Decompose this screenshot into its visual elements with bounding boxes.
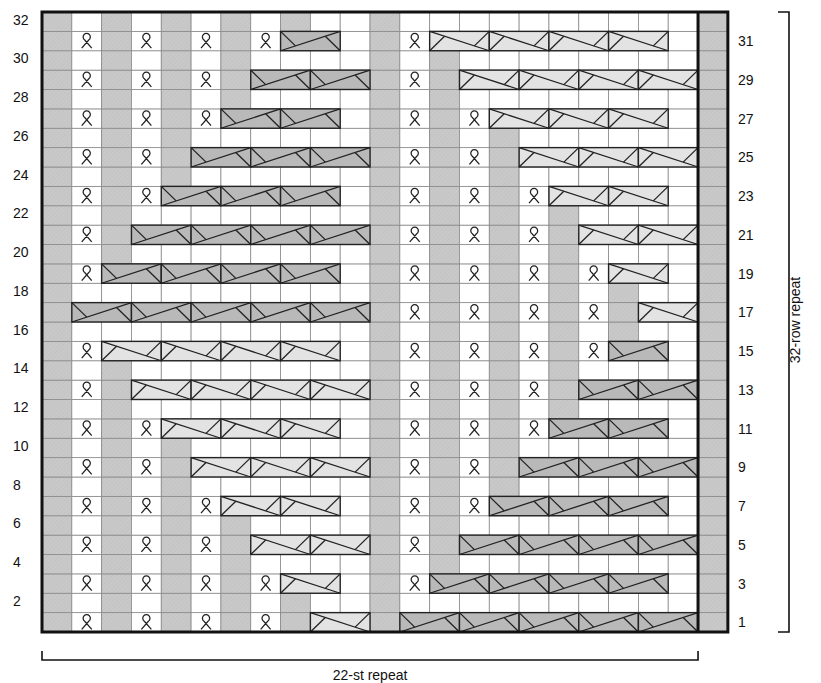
knit-cell bbox=[281, 516, 311, 535]
knit-cell bbox=[549, 438, 579, 457]
knit-cell bbox=[310, 167, 340, 186]
cable-left-cross bbox=[161, 341, 221, 360]
knit-cell bbox=[459, 361, 489, 380]
knit-cell bbox=[340, 245, 370, 264]
purl-cell bbox=[102, 51, 132, 70]
purl-cell bbox=[221, 593, 251, 612]
knit-cell bbox=[638, 438, 668, 457]
knit-cell bbox=[459, 283, 489, 302]
purl-cell bbox=[42, 167, 72, 186]
cable-left-cross bbox=[609, 109, 669, 128]
knit-cell bbox=[72, 128, 102, 147]
cable-right-cross bbox=[549, 496, 609, 515]
loop-stitch-cell bbox=[191, 496, 221, 515]
knit-cell bbox=[72, 12, 102, 31]
knit-cell bbox=[131, 245, 161, 264]
purl-cell bbox=[102, 574, 132, 593]
cable-left-cross bbox=[191, 458, 251, 477]
cable-right-cross bbox=[281, 109, 341, 128]
purl-cell bbox=[430, 245, 460, 264]
cable-right-cross bbox=[281, 186, 341, 205]
knit-cell bbox=[310, 438, 340, 457]
row-number-label: 13 bbox=[738, 383, 768, 397]
purl-cell bbox=[102, 477, 132, 496]
purl-cell bbox=[370, 31, 400, 50]
purl-cell bbox=[102, 419, 132, 438]
knit-cell bbox=[340, 400, 370, 419]
knit-cell bbox=[549, 593, 579, 612]
loop-stitch-cell bbox=[72, 380, 102, 399]
knit-cell bbox=[579, 283, 609, 302]
purl-cell bbox=[430, 322, 460, 341]
cable-right-cross bbox=[221, 264, 281, 283]
purl-cell bbox=[430, 555, 460, 574]
row-number-label: 15 bbox=[738, 344, 768, 358]
cable-left-cross bbox=[191, 380, 251, 399]
knit-cell bbox=[579, 400, 609, 419]
knit-cell bbox=[549, 516, 579, 535]
cable-right-cross bbox=[609, 341, 669, 360]
purl-cell bbox=[221, 12, 251, 31]
purl-cell bbox=[549, 380, 579, 399]
purl-cell bbox=[430, 70, 460, 89]
purl-cell bbox=[102, 516, 132, 535]
purl-cell bbox=[370, 400, 400, 419]
knit-cell bbox=[519, 555, 549, 574]
purl-cell bbox=[489, 361, 519, 380]
loop-stitch-cell bbox=[400, 574, 430, 593]
cable-right-cross bbox=[609, 419, 669, 438]
purl-cell bbox=[42, 458, 72, 477]
purl-cell bbox=[42, 90, 72, 109]
purl-cell bbox=[549, 264, 579, 283]
purl-cell bbox=[489, 438, 519, 457]
row-number-label: 21 bbox=[738, 228, 768, 242]
loop-stitch-cell bbox=[131, 419, 161, 438]
cable-left-cross bbox=[549, 109, 609, 128]
purl-cell bbox=[430, 51, 460, 70]
purl-cell bbox=[489, 477, 519, 496]
knit-cell bbox=[400, 555, 430, 574]
knit-cell bbox=[459, 438, 489, 457]
knit-cell bbox=[638, 477, 668, 496]
purl-cell bbox=[42, 31, 72, 50]
row-number-label: 12 bbox=[13, 400, 35, 414]
purl-cell bbox=[221, 574, 251, 593]
knit-cell bbox=[340, 167, 370, 186]
purl-cell bbox=[489, 303, 519, 322]
purl-cell bbox=[698, 438, 728, 457]
row-number-label: 3 bbox=[738, 577, 768, 591]
knit-cell bbox=[72, 593, 102, 612]
cable-left-cross bbox=[579, 70, 639, 89]
row-number-label: 19 bbox=[738, 267, 768, 281]
knit-cell bbox=[609, 477, 639, 496]
knit-cell bbox=[131, 516, 161, 535]
knit-cell bbox=[340, 438, 370, 457]
purl-cell bbox=[42, 477, 72, 496]
purl-cell bbox=[42, 496, 72, 515]
purl-cell bbox=[42, 225, 72, 244]
knit-cell bbox=[459, 400, 489, 419]
purl-cell bbox=[549, 341, 579, 360]
cable-left-cross bbox=[579, 148, 639, 167]
row-number-label: 7 bbox=[738, 499, 768, 513]
knit-cell bbox=[340, 283, 370, 302]
cable-right-cross bbox=[251, 70, 311, 89]
knit-cell bbox=[668, 12, 698, 31]
loop-stitch-cell bbox=[519, 341, 549, 360]
knit-cell bbox=[72, 90, 102, 109]
loop-stitch-cell bbox=[72, 70, 102, 89]
loop-stitch-cell bbox=[191, 535, 221, 554]
purl-cell bbox=[370, 70, 400, 89]
knit-cell bbox=[668, 322, 698, 341]
knit-cell bbox=[340, 593, 370, 612]
knit-cell bbox=[459, 322, 489, 341]
purl-cell bbox=[549, 225, 579, 244]
purl-cell bbox=[221, 613, 251, 632]
loop-stitch-cell bbox=[251, 574, 281, 593]
purl-cell bbox=[42, 380, 72, 399]
knit-cell bbox=[251, 245, 281, 264]
loop-stitch-cell bbox=[459, 264, 489, 283]
knit-cell bbox=[489, 516, 519, 535]
knit-cell bbox=[340, 496, 370, 515]
knit-cell bbox=[191, 438, 221, 457]
